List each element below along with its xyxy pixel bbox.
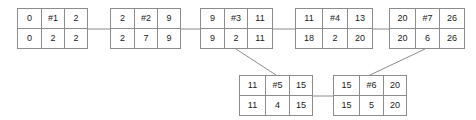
link-node3-node5: [236, 49, 276, 75]
cell-top-center: #2: [134, 9, 158, 28]
cell-bottom-right: 26: [440, 29, 464, 48]
node-box-5[interactable]: 11#51511415: [239, 75, 313, 116]
node-row-top: 11#515: [240, 76, 312, 96]
cell-top-left: 11: [296, 9, 322, 28]
cell-bottom-left: 20: [390, 29, 415, 48]
cell-bottom-center: 6: [415, 29, 440, 48]
cell-bottom-left: 0: [18, 29, 41, 48]
cell-bottom-right: 20: [384, 96, 406, 115]
cell-top-right: 2: [65, 9, 87, 28]
diagram-canvas: 0#120222#292799#311921111#4131822020#726…: [0, 0, 476, 120]
cell-top-center: #1: [41, 9, 65, 28]
cell-top-center: #7: [415, 9, 440, 28]
node-row-bottom: 279: [111, 29, 180, 48]
node-box-4[interactable]: 11#41318220: [295, 8, 373, 49]
node-box-7[interactable]: 20#72620626: [389, 8, 465, 49]
cell-bottom-right: 15: [290, 96, 312, 115]
cell-bottom-right: 9: [158, 29, 180, 48]
node-row-bottom: 18220: [296, 29, 372, 48]
node-row-top: 15#620: [334, 76, 406, 96]
node-row-top: 11#413: [296, 9, 372, 29]
cell-bottom-left: 11: [240, 96, 265, 115]
cell-top-right: 13: [348, 9, 372, 28]
cell-top-left: 9: [201, 9, 224, 28]
node-row-top: 0#12: [18, 9, 87, 29]
cell-top-center: #3: [224, 9, 248, 28]
node-row-top: 2#29: [111, 9, 180, 29]
cell-bottom-left: 2: [111, 29, 134, 48]
cell-bottom-right: 2: [65, 29, 87, 48]
cell-top-left: 2: [111, 9, 134, 28]
cell-top-right: 20: [384, 76, 406, 95]
node-box-6[interactable]: 15#62015520: [333, 75, 407, 116]
cell-top-right: 15: [290, 76, 312, 95]
cell-top-right: 11: [248, 9, 272, 28]
cell-top-left: 15: [334, 76, 359, 95]
node-box-3[interactable]: 9#3119211: [200, 8, 273, 49]
node-row-top: 20#726: [390, 9, 464, 29]
node-row-bottom: 15520: [334, 96, 406, 115]
cell-top-right: 26: [440, 9, 464, 28]
cell-top-left: 20: [390, 9, 415, 28]
cell-bottom-right: 20: [348, 29, 372, 48]
cell-top-center: #5: [265, 76, 290, 95]
cell-bottom-center: 5: [359, 96, 384, 115]
cell-bottom-center: 2: [41, 29, 65, 48]
node-row-top: 9#311: [201, 9, 272, 29]
cell-bottom-left: 9: [201, 29, 224, 48]
cell-bottom-right: 11: [248, 29, 272, 48]
cell-bottom-center: 7: [134, 29, 158, 48]
cell-top-left: 0: [18, 9, 41, 28]
cell-top-center: #6: [359, 76, 384, 95]
node-row-bottom: 022: [18, 29, 87, 48]
cell-bottom-center: 2: [322, 29, 348, 48]
cell-top-right: 9: [158, 9, 180, 28]
cell-bottom-left: 15: [334, 96, 359, 115]
cell-top-left: 11: [240, 76, 265, 95]
node-box-1[interactable]: 0#12022: [17, 8, 88, 49]
node-row-bottom: 20626: [390, 29, 464, 48]
cell-bottom-center: 2: [224, 29, 248, 48]
cell-bottom-center: 4: [265, 96, 290, 115]
node-row-bottom: 11415: [240, 96, 312, 115]
cell-top-center: #4: [322, 9, 348, 28]
node-row-bottom: 9211: [201, 29, 272, 48]
cell-bottom-left: 18: [296, 29, 322, 48]
link-node7-node6: [370, 49, 425, 75]
node-box-2[interactable]: 2#29279: [110, 8, 181, 49]
